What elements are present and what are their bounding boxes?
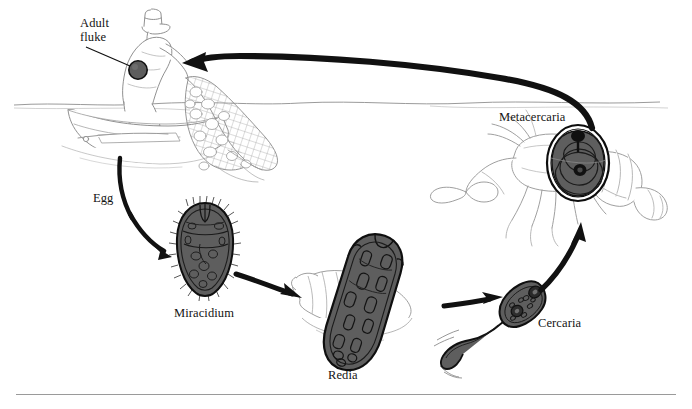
- label-adult-fluke: Adult fluke: [80, 16, 109, 44]
- adult-fluke-marker: [129, 61, 147, 79]
- life-cycle-figure: Adult fluke Egg Miracidium Redia Cercari…: [0, 0, 692, 409]
- metacercaria-organism: [547, 125, 609, 201]
- label-redia: Redia: [328, 368, 358, 382]
- fisherman-hat: [142, 9, 170, 34]
- label-cercaria: Cercaria: [538, 316, 581, 330]
- label-adult-fluke-line1: Adult: [80, 16, 109, 30]
- label-metacercaria: Metacercaria: [499, 110, 565, 124]
- arrow-cercaria-to-metacercaria: [541, 222, 586, 290]
- label-adult-fluke-line2: fluke: [80, 30, 109, 44]
- arrow-egg-to-miracidium: [130, 214, 172, 260]
- arrow-redia-to-cercaria: [444, 292, 503, 306]
- adult-fluke-leader-line: [86, 47, 130, 66]
- figure-bottom-rule: [16, 394, 676, 395]
- miracidium-organism: [169, 196, 241, 301]
- label-miracidium: Miracidium: [174, 306, 234, 320]
- label-egg: Egg: [93, 191, 113, 205]
- fishing-net: [185, 76, 278, 182]
